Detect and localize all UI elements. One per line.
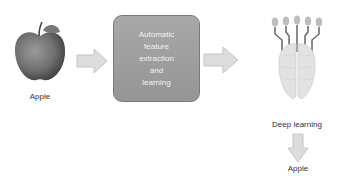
feature-extraction-box: Automatic feature extraction and learnin… bbox=[113, 15, 200, 102]
input-label: Apple bbox=[10, 92, 70, 101]
arrow-right-icon bbox=[76, 48, 108, 74]
arrow-right-icon bbox=[203, 46, 239, 74]
box-line-1: Automatic bbox=[122, 29, 192, 41]
brain-network-icon bbox=[269, 14, 325, 104]
box-line-2: feature bbox=[122, 41, 192, 53]
arrow-down-icon bbox=[287, 133, 309, 163]
box-line-4: and bbox=[122, 65, 192, 77]
output-label: Apple bbox=[268, 164, 328, 173]
apple-icon bbox=[12, 20, 68, 84]
model-label: Deep learning bbox=[262, 120, 332, 129]
box-line-5: learning bbox=[122, 77, 192, 89]
box-line-3: extraction bbox=[122, 53, 192, 65]
